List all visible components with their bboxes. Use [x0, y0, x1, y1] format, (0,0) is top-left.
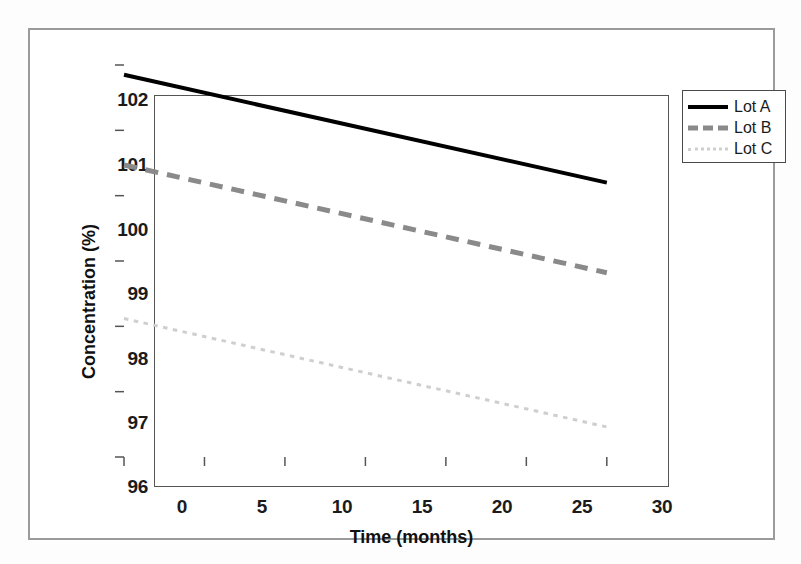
y-axis-title: Concentration (%) — [79, 202, 100, 402]
y-tick-99: 99 — [104, 283, 148, 305]
y-tick-101: 101 — [104, 154, 148, 176]
legend-item-lot-c: Lot C — [688, 139, 780, 159]
y-tick-102: 102 — [104, 89, 148, 111]
x-tick-25: 25 — [552, 496, 612, 518]
x-tick-10: 10 — [312, 496, 372, 518]
plot-area-border — [154, 95, 669, 487]
y-tick-100: 100 — [104, 219, 148, 241]
y-tick-97: 97 — [104, 412, 148, 434]
legend-item-lot-a: Lot A — [688, 97, 780, 117]
legend-label-lot-a: Lot A — [734, 98, 770, 116]
y-axis-tick-labels: 102 101 100 99 98 97 96 — [92, 30, 148, 564]
x-tick-5: 5 — [232, 496, 292, 518]
legend-line-icon-lot-b — [688, 122, 728, 134]
legend-box: Lot A Lot B Lot C — [682, 90, 786, 163]
x-tick-0: 0 — [152, 496, 212, 518]
legend-label-lot-c: Lot C — [734, 140, 772, 158]
y-tick-96: 96 — [104, 476, 148, 498]
x-axis-tick-labels: 0 5 10 15 20 25 30 — [30, 496, 801, 526]
y-tick-98: 98 — [104, 348, 148, 370]
x-axis-title: Time (months) — [154, 527, 669, 548]
figure-outer-border: 102 101 100 99 98 97 96 0 5 10 15 20 25 … — [28, 28, 775, 540]
legend-item-lot-b: Lot B — [688, 118, 780, 138]
x-tick-15: 15 — [392, 496, 452, 518]
x-tick-20: 20 — [472, 496, 532, 518]
legend-label-lot-b: Lot B — [734, 119, 771, 137]
legend-line-icon-lot-a — [688, 101, 728, 113]
x-tick-30: 30 — [632, 496, 692, 518]
legend-line-icon-lot-c — [688, 143, 728, 155]
